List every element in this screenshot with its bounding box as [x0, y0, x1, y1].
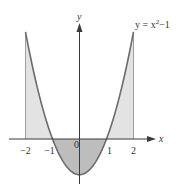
y-axis-label: y [76, 11, 82, 22]
chart-canvas: x y −2−1012 y = x2−1 [0, 0, 186, 192]
equation-label: y = x2−1 [135, 18, 170, 30]
equation-tail: −1 [159, 19, 170, 30]
y-axis-arrow-icon [77, 23, 83, 32]
x-tick-label: 0 [74, 139, 79, 150]
shaded-region-0 [26, 32, 53, 139]
x-axis-label: x [158, 133, 164, 144]
x-tick-label: −1 [44, 145, 55, 156]
x-axis-arrow-icon [147, 136, 156, 142]
x-tick-label: 2 [131, 145, 136, 156]
equation-base: y = x [135, 19, 156, 30]
x-tick-label: 1 [107, 145, 112, 156]
x-tick-label: −2 [20, 145, 31, 156]
shaded-region-2 [107, 32, 134, 139]
